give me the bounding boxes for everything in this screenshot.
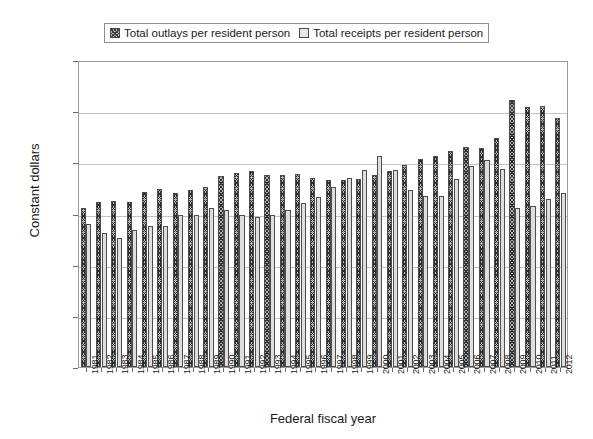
bar-outlays <box>341 180 346 367</box>
x-axis-tick-mark <box>453 368 454 372</box>
bar-outlays <box>157 189 162 367</box>
x-axis-tick-label: 1984 <box>136 355 146 374</box>
bar-receipts <box>439 196 444 367</box>
x-axis-tick-mark <box>331 368 332 372</box>
x-axis-tick-mark <box>484 368 485 372</box>
bar-outlays <box>463 147 468 367</box>
bar-group <box>309 62 324 367</box>
x-axis-tick-mark <box>208 368 209 372</box>
x-axis-title: Federal fiscal year <box>78 411 568 426</box>
bar-outlays <box>127 202 132 367</box>
x-axis-tick-label: 2003 <box>427 355 437 374</box>
bar-group <box>202 62 217 367</box>
x-axis-tick-mark <box>116 368 117 372</box>
bar-receipts <box>178 215 183 367</box>
x-axis-tick-mark <box>300 368 301 372</box>
bar-receipts <box>301 203 306 367</box>
chart-legend: Total outlays per resident person Total … <box>104 23 489 43</box>
x-axis-tick-label: 1991 <box>243 355 253 374</box>
bar-receipts <box>255 217 260 367</box>
legend-swatch-outlays-icon <box>110 28 120 38</box>
x-axis-tick-mark <box>86 368 87 372</box>
x-axis-tick-label: 2010 <box>534 355 544 374</box>
bar-receipts <box>117 238 122 367</box>
bar-group <box>110 62 125 367</box>
x-axis-tick-label: 2007 <box>488 355 498 374</box>
bar-receipts <box>148 226 153 367</box>
bar-outlays <box>402 165 407 367</box>
x-axis-tick-mark <box>269 368 270 372</box>
x-axis-tick-mark <box>346 368 347 372</box>
bar-receipts <box>408 190 413 367</box>
bar-outlays <box>142 192 147 367</box>
x-axis-tick-label: 2005 <box>457 355 467 374</box>
bar-group <box>355 62 370 367</box>
bar-group <box>217 62 232 367</box>
bar-group <box>79 62 94 367</box>
bar-outlays <box>218 176 223 367</box>
bar-group <box>247 62 262 367</box>
x-axis-tick-mark <box>101 368 102 372</box>
x-axis-tick-mark <box>162 368 163 372</box>
bar-outlays <box>249 171 254 367</box>
bar-outlays <box>81 208 86 367</box>
y-axis-tick-mark <box>73 266 78 267</box>
y-axis-tick-mark <box>73 61 78 62</box>
bar-outlays <box>555 118 560 367</box>
bar-group <box>416 62 431 367</box>
bar-outlays <box>433 156 438 367</box>
bar-group <box>293 62 308 367</box>
bar-outlays <box>494 138 499 367</box>
y-axis-tick-mark <box>73 112 78 113</box>
bar-outlays <box>280 175 285 367</box>
x-axis-tick-label: 2000 <box>381 355 391 374</box>
bar-group <box>462 62 477 367</box>
x-axis-tick-label: 2001 <box>396 355 406 374</box>
bar-outlays <box>509 100 514 367</box>
bar-outlays <box>111 201 116 367</box>
bar-group <box>401 62 416 367</box>
chart-figure: Total outlays per resident person Total … <box>0 0 593 439</box>
bar-receipts <box>209 208 214 367</box>
x-axis-tick-mark <box>254 368 255 372</box>
bar-group <box>140 62 155 367</box>
x-axis-tick-label: 2008 <box>503 355 513 374</box>
bar-outlays <box>188 190 193 367</box>
legend-entry-outlays: Total outlays per resident person <box>110 27 290 39</box>
bar-group <box>125 62 140 367</box>
x-axis-tick-label: 1993 <box>273 355 283 374</box>
x-axis-tick-mark <box>438 368 439 372</box>
bar-receipts <box>270 215 275 367</box>
bar-outlays <box>448 151 453 367</box>
bar-group <box>554 62 569 367</box>
bar-receipts <box>132 230 137 367</box>
bar-group <box>339 62 354 367</box>
bar-receipts <box>469 166 474 367</box>
y-axis-tick-mark <box>73 215 78 216</box>
bar-outlays <box>387 171 392 367</box>
legend-label-outlays: Total outlays per resident person <box>124 27 290 39</box>
bar-group <box>186 62 201 367</box>
bar-group <box>447 62 462 367</box>
x-axis-tick-mark <box>132 368 133 372</box>
x-axis-tick-label: 1989 <box>212 355 222 374</box>
x-axis-tick-mark <box>514 368 515 372</box>
x-axis-tick-label: 2004 <box>442 355 452 374</box>
bar-receipts <box>285 210 290 367</box>
bar-outlays <box>173 193 178 367</box>
x-axis-tick-mark <box>392 368 393 372</box>
x-axis-tick-label: 1983 <box>120 355 130 374</box>
x-axis-tick-label: 1981 <box>90 355 100 374</box>
bar-receipts <box>423 196 428 367</box>
bar-outlays <box>418 159 423 368</box>
legend-label-receipts: Total receipts per resident person <box>313 27 483 39</box>
x-axis-tick-label: 2006 <box>472 355 482 374</box>
x-axis-tick-label: 1987 <box>182 355 192 374</box>
bar-receipts <box>484 160 489 367</box>
bar-receipts <box>515 208 520 367</box>
y-axis-tick-mark <box>73 163 78 164</box>
bar-group <box>232 62 247 367</box>
bar-group <box>523 62 538 367</box>
x-axis-tick-mark <box>423 368 424 372</box>
bar-outlays <box>479 148 484 367</box>
